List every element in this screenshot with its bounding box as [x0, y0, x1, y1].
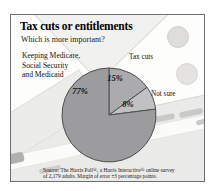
poll-card: Tax cuts or entitlements Which is more i… [10, 14, 205, 182]
label-not-sure: Not sure [151, 90, 176, 98]
currency-seal-icon [167, 26, 189, 48]
pie-slice-value-label: 15% [107, 73, 123, 83]
source-note: Source: The Harris Poll®, a Harris Inter… [43, 167, 175, 179]
chart-subtitle: Which is more important? [21, 35, 105, 44]
pie-chart: 15%8%77% [59, 65, 159, 165]
currency-seal-icon [176, 63, 198, 85]
infographic-root: Tax cuts or entitlements Which is more i… [0, 0, 214, 191]
chart-title: Tax cuts or entitlements [20, 20, 132, 33]
pie-slice-value-label: 77% [72, 86, 88, 96]
label-entitlements: Keeping Medicare, Social Security and Me… [22, 51, 80, 80]
pie-slice-value-label: 8% [122, 99, 133, 109]
label-tax-cuts: Tax cuts [129, 53, 153, 61]
